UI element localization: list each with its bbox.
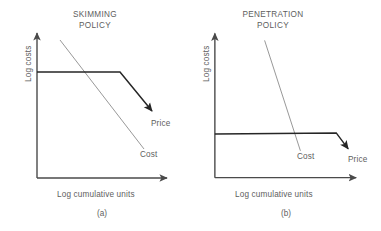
cost-line-b bbox=[265, 40, 301, 150]
x-axis-label-a: Log cumulative units bbox=[57, 190, 135, 201]
policy-title-b: PENETRATION POLICY bbox=[226, 10, 320, 32]
chart-panel-b: PENETRATION POLICY Log costs Log cumulat… bbox=[190, 0, 380, 231]
policy-title-a-line1: SKIMMING bbox=[52, 10, 138, 21]
policy-title-b-line1: PENETRATION bbox=[226, 10, 320, 21]
policy-title-a-line2: POLICY bbox=[52, 21, 138, 32]
price-annotation-b: Price bbox=[348, 155, 367, 166]
cost-line-a bbox=[60, 40, 144, 149]
price-line-a bbox=[37, 72, 152, 111]
figure-container: SKIMMING POLICY Log costs Log cumulative… bbox=[0, 0, 381, 231]
chart-panel-a: SKIMMING POLICY Log costs Log cumulative… bbox=[0, 0, 190, 231]
panel-caption-b: (b) bbox=[256, 209, 316, 218]
policy-title-a: SKIMMING POLICY bbox=[52, 10, 138, 32]
cost-annotation-b: Cost bbox=[297, 152, 314, 163]
y-axis-label-b: Log costs bbox=[202, 46, 213, 82]
cost-annotation-a: Cost bbox=[140, 150, 157, 161]
policy-title-b-line2: POLICY bbox=[226, 21, 320, 32]
price-line-b bbox=[215, 133, 348, 149]
price-annotation-a: Price bbox=[151, 119, 170, 130]
x-axis-label-b: Log cumulative units bbox=[235, 190, 313, 201]
panel-caption-a: (a) bbox=[72, 209, 132, 218]
y-axis-label-a: Log costs bbox=[24, 46, 35, 82]
